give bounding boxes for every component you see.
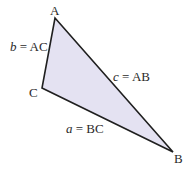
side-label-b: b = AC [10, 39, 48, 54]
triangle-diagram: A C B b = AC c = AB a = BC [0, 0, 193, 170]
vertex-label-a: A [50, 3, 60, 18]
side-eq-c: = AB [119, 69, 151, 84]
vertex-label-c: C [29, 85, 38, 100]
side-label-a: a = BC [66, 121, 104, 136]
side-eq-b: = AC [17, 39, 48, 54]
vertex-label-b: B [174, 151, 183, 166]
side-label-c: c = AB [113, 69, 150, 84]
triangle-abc [42, 18, 173, 152]
side-eq-a: = BC [73, 121, 104, 136]
